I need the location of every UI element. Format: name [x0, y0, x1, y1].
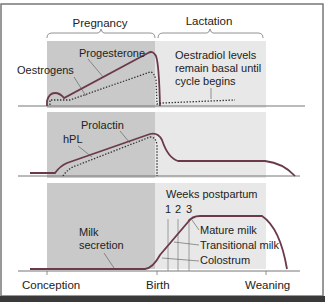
lactation-label: Lactation	[186, 15, 233, 27]
week-1-label: 1	[165, 203, 171, 215]
mature-milk-label: Mature milk	[200, 224, 257, 236]
weaning-label: Weaning	[245, 279, 290, 291]
lactation-shade	[155, 112, 266, 178]
panel-milk-secretion: Weeks postpartum 1 2 3 Milk secretion Ma…	[18, 183, 300, 275]
hpl-label: hPL	[63, 133, 83, 145]
transitional-milk-label: Transitional milk	[200, 239, 280, 251]
oestrogens-label: Oestrogens	[17, 64, 74, 76]
panel-prolactin: Prolactin hPL	[18, 112, 300, 178]
bottom-bar	[0, 296, 325, 302]
milk-secretion-label-2: secretion	[79, 239, 124, 251]
panel-sex-steroids: Progesterone Oestrogens Oestradiol level…	[17, 41, 305, 108]
week-2-label: 2	[175, 203, 181, 215]
week-3-label: 3	[186, 203, 192, 215]
pregnancy-shade	[47, 183, 155, 269]
oestradiol-note-1: Oestradiol levels	[175, 49, 257, 61]
conception-label: Conception	[22, 279, 80, 291]
x-axis: Conception Birth Weaning	[22, 279, 290, 291]
lactation-hormone-diagram: Pregnancy Lactation Progesterone Oestrog…	[0, 0, 325, 302]
oestradiol-note-3: cycle begins	[175, 75, 236, 87]
birth-label: Birth	[146, 279, 170, 291]
milk-secretion-label-1: Milk	[79, 226, 99, 238]
weeks-postpartum-label: Weeks postpartum	[166, 188, 258, 200]
colostrum-label: Colostrum	[200, 254, 250, 266]
prolactin-label: Prolactin	[81, 119, 124, 131]
oestradiol-note-2: remain basal until	[175, 62, 261, 74]
progesterone-label: Progesterone	[79, 47, 145, 59]
pregnancy-label: Pregnancy	[73, 17, 128, 29]
